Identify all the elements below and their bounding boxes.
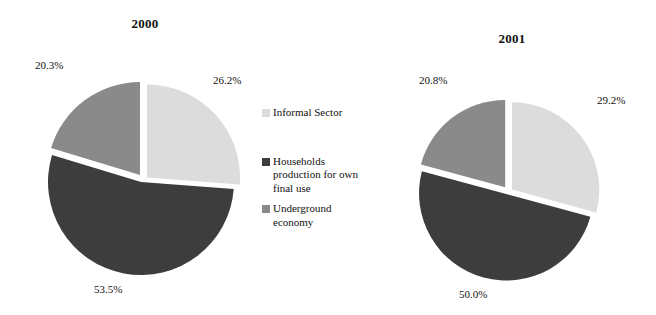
legend-swatch-households-production-icon bbox=[262, 158, 270, 166]
pie-2000-label-households-production: 53.5% bbox=[94, 283, 122, 296]
legend-label-underground-economy: Undergroundeconomy bbox=[273, 202, 363, 229]
chart-title-2000: 2000 bbox=[113, 16, 177, 32]
pie-2000-svg bbox=[45, 78, 245, 278]
legend-label-informal-sector: Informal Sector bbox=[273, 106, 342, 118]
pie-2001-slice-informal-sector[interactable] bbox=[512, 102, 599, 212]
pie-2001-slices bbox=[419, 100, 599, 281]
legend-label-households-line3: final use bbox=[273, 182, 311, 194]
legend-swatch-underground-economy-icon bbox=[262, 205, 270, 213]
legend-label-underground-line1: Underground bbox=[273, 202, 331, 214]
legend-swatch-informal-sector-icon bbox=[262, 109, 270, 117]
pie-2000-label-underground-economy: 20.3% bbox=[35, 59, 63, 72]
legend-label-households-line2: production for own bbox=[273, 168, 358, 180]
pie-2001-slice-underground-economy[interactable] bbox=[421, 100, 505, 187]
pie-2001-svg bbox=[414, 96, 608, 290]
pie-2001-label-households-production: 50.0% bbox=[459, 288, 487, 301]
legend-item-underground-economy[interactable]: Undergroundeconomy bbox=[262, 202, 366, 229]
pie-2001-label-informal-sector: 29.2% bbox=[597, 94, 625, 107]
legend-item-informal-sector[interactable]: Informal Sector bbox=[262, 106, 366, 120]
legend-label-underground-line2: economy bbox=[273, 216, 313, 228]
legend-item-households-production[interactable]: Householdsproduction for ownfinal use bbox=[262, 155, 366, 196]
pie-chart-2000 bbox=[45, 78, 245, 278]
pie-2000-slices bbox=[48, 82, 240, 275]
pie-chart-2001 bbox=[414, 96, 608, 290]
chart-title-2001: 2001 bbox=[480, 31, 544, 47]
chart-legend: Informal Sector Householdsproduction for… bbox=[262, 106, 366, 229]
pie-2001-label-underground-economy: 20.8% bbox=[419, 74, 447, 87]
pie-2000-slice-informal-sector[interactable] bbox=[147, 85, 240, 185]
legend-label-households-production: Householdsproduction for ownfinal use bbox=[273, 155, 363, 196]
pie-chart-figure: 2000 20.3% 26.2% 53.5% 2001 20.8% 29.2% … bbox=[0, 0, 656, 315]
pie-2000-label-informal-sector: 26.2% bbox=[213, 74, 241, 87]
legend-label-households-line1: Households bbox=[273, 155, 325, 167]
